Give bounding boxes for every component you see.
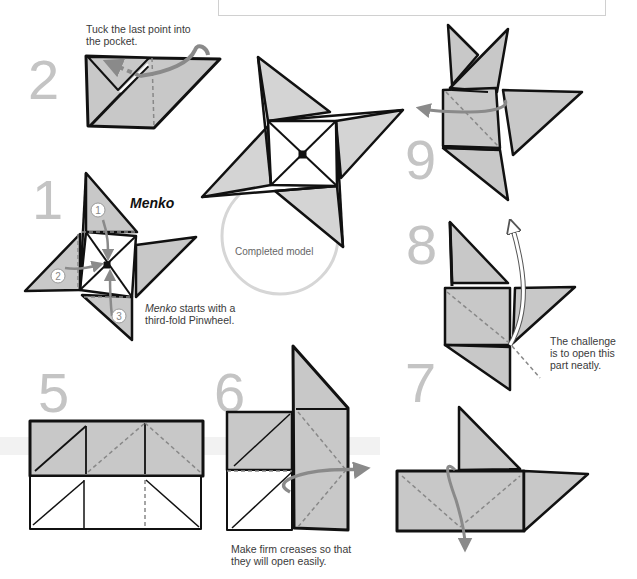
completed-model-figure	[202, 57, 403, 247]
step6-figure	[227, 346, 362, 530]
step7-figure	[397, 407, 588, 545]
step9-figure	[423, 25, 582, 200]
step1-figure: 1 2 3	[25, 173, 196, 340]
step8-figure	[445, 222, 575, 390]
step5-figure	[30, 421, 203, 529]
origami-diagram: 2 1 5 6 7 8 9 Tuck the last point into t…	[0, 0, 637, 579]
step2-figure	[86, 46, 220, 128]
callout-1: 1	[95, 205, 101, 216]
fold-illustrations: 1 2 3	[0, 0, 637, 579]
callout-3: 3	[116, 311, 122, 322]
callout-2: 2	[55, 271, 61, 282]
